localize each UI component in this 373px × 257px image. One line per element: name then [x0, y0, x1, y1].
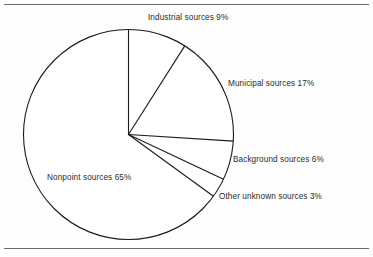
pie-slice-label-other-unknown: Other unknown sources 3% [219, 192, 322, 202]
pie-slice-label-background: Background sources 6% [233, 155, 324, 165]
pie-slice-label-nonpoint: Nonpoint sources 65% [47, 173, 131, 183]
pie-slice-label-industrial: Industrial sources 9% [148, 13, 228, 23]
figure-container: Industrial sources 9% Municipal sources … [0, 0, 373, 257]
pie-slice-label-municipal: Municipal sources 17% [228, 79, 314, 89]
bottom-divider-rule [4, 248, 369, 249]
pie-chart-graphic [0, 0, 373, 257]
